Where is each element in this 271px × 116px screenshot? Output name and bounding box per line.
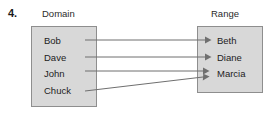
arrow-chuck-to-marcia (85, 74, 210, 91)
mapping-diagram-figure: 4. Domain Range Bob Dave John Chuck Beth… (0, 0, 271, 116)
arrow-bob-to-beth (85, 37, 212, 44)
arrow-john-to-marcia (85, 68, 210, 75)
arrow-dave-to-diane (85, 54, 212, 61)
mapping-arrows-layer (0, 0, 271, 116)
